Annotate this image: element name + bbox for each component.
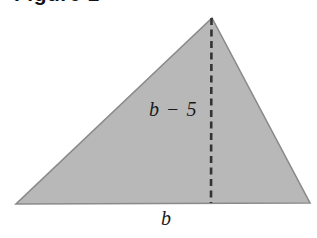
base-label: b [161, 208, 171, 228]
figure-canvas: Figure 1 b − 5 b [0, 0, 317, 238]
height-label: b − 5 [149, 99, 198, 119]
